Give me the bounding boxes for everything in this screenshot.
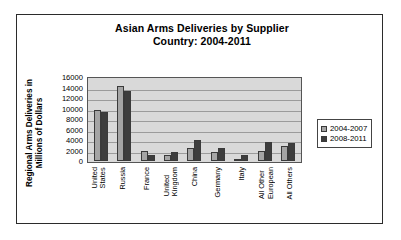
chart-frame: Asian Arms Deliveries by Supplier Countr…	[16, 14, 383, 224]
bar-group	[183, 79, 206, 161]
bar	[187, 148, 194, 161]
bar	[194, 140, 201, 161]
bar	[117, 86, 124, 161]
chart-title: Asian Arms Deliveries by Supplier Countr…	[57, 22, 347, 47]
bar-group	[230, 79, 253, 161]
bar-group	[253, 79, 276, 161]
bar	[141, 151, 148, 162]
bar	[124, 91, 131, 161]
y-axis-tick-label: 4000	[66, 137, 83, 145]
y-axis-tick-label: 2000	[66, 148, 83, 156]
bar-group	[112, 79, 135, 161]
x-axis-category-label: China	[183, 165, 207, 227]
x-axis-category-label-word: Russia	[119, 167, 128, 190]
x-axis-category-label-word: States	[99, 167, 108, 188]
legend-item-label: 2004-2007	[330, 124, 367, 133]
bar	[171, 152, 178, 161]
bar-group	[159, 79, 182, 161]
bar	[94, 110, 101, 161]
bar	[218, 148, 225, 161]
x-axis-category-labels: UnitedStatesRussiaFranceUnitedKingdomChi…	[87, 165, 302, 227]
x-axis-category-label-word: Italy	[238, 167, 247, 181]
y-axis-tick-label: 16000	[62, 74, 83, 82]
x-axis-category-label: All OtherEuropean	[254, 165, 278, 227]
legend-item: 2004-2007	[321, 124, 367, 133]
legend-swatch-icon	[321, 126, 327, 132]
x-axis-category-label: Russia	[111, 165, 135, 227]
bar	[101, 112, 108, 161]
x-axis-category-label: France	[135, 165, 159, 227]
bar	[258, 151, 265, 161]
x-axis-category-label-word: Germany	[214, 167, 223, 197]
x-axis-category-label: UnitedKingdom	[159, 165, 183, 227]
x-axis-category-label: Italy	[230, 165, 254, 227]
y-axis-tick-label: 12000	[62, 95, 83, 103]
bar	[288, 143, 295, 161]
legend-item-label: 2008-2011	[330, 134, 367, 143]
plot-area	[87, 77, 302, 163]
y-axis-tick-label: 6000	[66, 127, 83, 135]
y-axis-tick-label: 14000	[62, 85, 83, 93]
x-axis-category-label-word: China	[190, 167, 199, 186]
bar-group	[277, 79, 300, 161]
y-axis-title-line-2: Millions of Dollars	[35, 68, 45, 198]
x-axis-category-label-word: All Others	[286, 167, 295, 199]
bar	[148, 155, 155, 161]
x-axis-category-label: Germany	[206, 165, 230, 227]
bar	[234, 159, 241, 161]
chart-title-line-1: Asian Arms Deliveries by Supplier	[57, 22, 347, 35]
y-axis-tick-label: 8000	[66, 116, 83, 124]
bars-layer	[89, 79, 300, 161]
x-axis-category-label-word: France	[142, 167, 151, 190]
y-axis-tick-label: 0	[79, 158, 83, 166]
y-axis-title-line-1: Regional Arms Deliveries in	[25, 68, 35, 198]
y-axis-title: Regional Arms Deliveries in Millions of …	[25, 68, 45, 198]
x-axis-category-label: UnitedStates	[87, 165, 111, 227]
y-axis-tick-labels: 1600014000120001000080006000400020000	[45, 73, 83, 167]
bar-group	[89, 79, 112, 161]
bar	[211, 152, 218, 161]
legend-swatch-icon	[321, 136, 327, 142]
y-axis-tick-label: 10000	[62, 106, 83, 114]
x-axis-category-label: All Others	[278, 165, 302, 227]
bar-group	[136, 79, 159, 161]
bar-group	[206, 79, 229, 161]
chart-legend: 2004-20072008-2011	[317, 119, 372, 148]
bar	[265, 142, 272, 161]
bar	[164, 155, 171, 161]
bar	[281, 146, 288, 161]
chart-title-line-2: Country: 2004-2011	[57, 35, 347, 48]
x-axis-category-label-word: European	[266, 167, 275, 199]
plot-area-wrapper	[87, 77, 302, 163]
bar	[241, 155, 248, 161]
legend-item: 2008-2011	[321, 134, 367, 143]
x-axis-category-label-word: Kingdom	[171, 167, 180, 196]
